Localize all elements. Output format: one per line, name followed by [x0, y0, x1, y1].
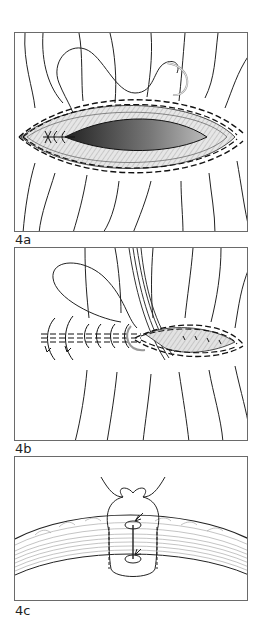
panel-label-4a: 4a — [15, 233, 31, 246]
panel-label-4c: 4c — [15, 604, 30, 617]
panel-label-4b: 4b — [15, 442, 32, 455]
wound-closure-progress-illustration — [15, 248, 248, 441]
panel-4a — [14, 32, 248, 232]
panel-4c — [14, 456, 248, 601]
skin-cross-section-suture-illustration — [15, 457, 248, 601]
wound-suture-start-illustration — [15, 33, 248, 232]
panel-4b — [14, 247, 248, 441]
